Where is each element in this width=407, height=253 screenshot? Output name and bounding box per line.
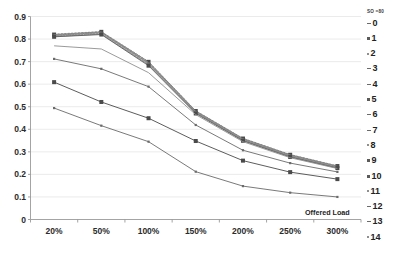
legend-item-label: 6 <box>373 110 378 119</box>
x-axis-tick-label: 100% <box>138 227 160 236</box>
legend-item-label: 9 <box>372 156 377 165</box>
legend: SO =80 01234567891011121314 <box>367 9 407 249</box>
legend-item[interactable]: 10 <box>367 171 382 181</box>
y-axis-tick-label: 0 <box>21 215 26 224</box>
y-axis-tick-label: 0.4 <box>14 125 26 134</box>
legend-item[interactable]: 7 <box>367 125 378 135</box>
x-axis-tick-label: 200% <box>232 227 254 236</box>
legend-marker-icon <box>367 37 370 40</box>
legend-item[interactable]: 14 <box>367 232 381 242</box>
legend-item[interactable]: 0 <box>367 18 378 28</box>
legend-item-label: 13 <box>373 217 383 226</box>
legend-marker-icon <box>367 98 370 101</box>
y-axis-tick-label: 0.9 <box>14 12 26 21</box>
x-axis-tick-label: 50% <box>93 227 110 236</box>
legend-item-label: 0 <box>373 19 378 28</box>
legend-item-label: 4 <box>373 80 378 89</box>
legend-item[interactable]: 4 <box>367 79 378 89</box>
y-axis-tick-label: 0.8 <box>14 35 26 44</box>
legend-item[interactable]: 6 <box>367 110 378 120</box>
legend-item-label: 7 <box>373 126 378 135</box>
legend-marker-icon <box>367 236 369 238</box>
legend-item-label: 8 <box>371 141 376 150</box>
legend-marker-icon <box>367 130 371 131</box>
legend-marker-icon <box>367 206 371 207</box>
legend-marker-icon <box>367 175 370 178</box>
legend-item[interactable]: 5 <box>367 95 377 105</box>
legend-marker-icon <box>367 84 371 85</box>
legend-marker-icon <box>367 68 371 69</box>
legend-item-label: 5 <box>372 95 377 104</box>
legend-marker-icon <box>367 23 371 24</box>
y-axis-tick-label: 0.5 <box>14 102 26 111</box>
legend-marker-icon <box>367 159 370 162</box>
y-axis-tick-label: 0.2 <box>14 170 26 179</box>
x-axis-tick-label: 250% <box>279 227 301 236</box>
y-axis-tick-label: 0.7 <box>14 57 26 66</box>
legend-marker-icon <box>367 53 369 55</box>
legend-item-label: 10 <box>372 172 382 181</box>
legend-title: SO =80 <box>367 9 384 14</box>
legend-item[interactable]: 11 <box>367 186 380 196</box>
legend-item[interactable]: 8 <box>367 140 376 150</box>
y-axis-tick-label: 0.1 <box>14 193 26 202</box>
x-axis-tick-label: 300% <box>327 227 349 236</box>
y-axis-tick-label: 0.6 <box>14 80 26 89</box>
legend-marker-icon <box>367 221 371 222</box>
y-axis-tick-label: 0.3 <box>14 148 26 157</box>
x-axis-tick-label: 150% <box>185 227 207 236</box>
line-chart: 0.90.80.70.60.50.40.30.20.10 20%50%100%1… <box>0 0 407 253</box>
legend-item[interactable]: 3 <box>367 64 378 74</box>
legend-marker-icon <box>367 114 371 115</box>
x-axis-tick-label: 20% <box>46 227 63 236</box>
legend-item[interactable]: 2 <box>367 49 376 59</box>
legend-item[interactable]: 9 <box>367 156 377 166</box>
legend-marker-icon <box>367 190 369 192</box>
legend-item[interactable]: 13 <box>367 217 383 227</box>
legend-item-label: 12 <box>373 202 383 211</box>
x-axis-title: Offered Load <box>305 209 350 216</box>
legend-item-label: 14 <box>371 233 381 242</box>
legend-item[interactable]: 12 <box>367 202 383 212</box>
legend-item-label: 1 <box>372 34 377 43</box>
legend-item[interactable]: 1 <box>367 33 377 43</box>
legend-item-label: 11 <box>371 187 381 196</box>
legend-marker-icon <box>367 144 369 146</box>
legend-item-label: 2 <box>371 49 376 58</box>
legend-item-label: 3 <box>373 64 378 73</box>
